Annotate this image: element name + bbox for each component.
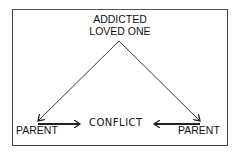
node-label-line2: LOVED ONE [80, 25, 160, 37]
arrow-to-right-parent [119, 41, 200, 121]
conflict-label: CONFLICT [89, 117, 143, 128]
arrow-to-left-parent [38, 41, 119, 121]
node-addicted-loved-one: ADDICTED LOVED ONE [80, 13, 160, 37]
node-parent-left: PARENT [16, 124, 58, 136]
node-label-line1: ADDICTED [80, 13, 160, 25]
node-parent-right: PARENT [178, 124, 220, 136]
